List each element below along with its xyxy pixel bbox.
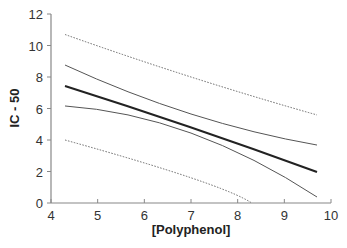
regression-line-line — [65, 86, 317, 172]
lower-confidence-band-line — [65, 106, 317, 197]
upper-prediction-band-line — [65, 34, 317, 114]
y-tick-label: 6 — [36, 102, 43, 117]
x-tick-label: 4 — [47, 208, 54, 223]
x-tick-label: 7 — [187, 208, 194, 223]
y-tick-label: 10 — [29, 39, 43, 54]
y-tick-label: 12 — [29, 7, 43, 22]
y-tick-label: 0 — [36, 196, 43, 211]
plot-lines — [65, 34, 317, 203]
y-tick-label: 2 — [36, 165, 43, 180]
y-tick-label: 8 — [36, 70, 43, 85]
x-axis-title: [Polyphenol] — [152, 222, 231, 237]
axes: 45678910 024681012 — [29, 7, 339, 223]
y-tick-label: 4 — [36, 133, 43, 148]
x-tick-label: 5 — [94, 208, 101, 223]
y-axis-title: IC - 50 — [7, 88, 22, 127]
y-ticks: 024681012 — [29, 7, 51, 211]
x-tick-label: 6 — [141, 208, 148, 223]
x-tick-label: 10 — [324, 208, 338, 223]
lower-prediction-band-line — [65, 140, 252, 203]
x-tick-label: 9 — [281, 208, 288, 223]
regression-chart: 45678910 024681012 [Polyphenol] IC - 50 — [0, 0, 347, 248]
x-tick-label: 8 — [234, 208, 241, 223]
